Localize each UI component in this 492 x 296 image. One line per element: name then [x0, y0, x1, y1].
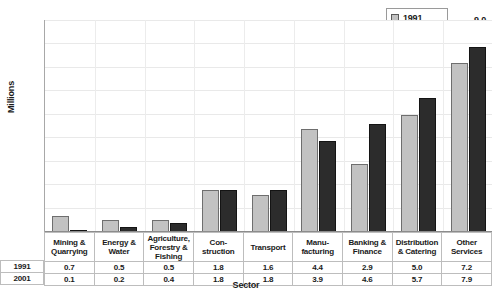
- table-header-cell: Manu-facturing: [293, 233, 343, 262]
- table-row-label-1991: 1991: [1, 261, 44, 273]
- table-header-cell: Banking &Finance: [342, 233, 392, 262]
- table-row: 0.70.50.51.81.64.42.95.07.2: [45, 262, 492, 274]
- table-cell: 7.2: [442, 262, 492, 274]
- column-separator: [393, 20, 394, 232]
- column-separator: [244, 20, 245, 232]
- plot-area: [44, 20, 492, 232]
- bar-1991-banking-finance: [351, 164, 368, 232]
- bar-2001-con-struction: [220, 190, 237, 232]
- column-separator: [344, 20, 345, 232]
- bar-2001-other-services: [469, 47, 486, 232]
- column-separator: [194, 20, 195, 232]
- column-separator: [95, 20, 96, 232]
- chart-screenshot: 1991 2001 Millions 0.01.02.03.04.05.06.0…: [0, 0, 492, 296]
- column-separator: [294, 20, 295, 232]
- x-axis-title: Sector: [0, 280, 492, 290]
- bar-1991-mining-quarrying: [52, 216, 69, 232]
- gridline: [45, 90, 492, 91]
- bar-1991-distribution-catering: [401, 115, 418, 232]
- bar-2001-distribution-catering: [419, 98, 436, 232]
- column-separator: [443, 20, 444, 232]
- table-header-cell: OtherServices: [442, 233, 492, 262]
- table-cell: 0.7: [45, 262, 95, 274]
- gridline: [45, 43, 492, 44]
- bar-1991-transport: [252, 195, 269, 233]
- table-header-cell: Energy &Water: [94, 233, 144, 262]
- gridline: [45, 67, 492, 68]
- table-cell: 1.8: [193, 262, 243, 274]
- table-header-cell: Mining &Quarrying: [45, 233, 95, 262]
- table-header-cell: Distribution& Catering: [392, 233, 442, 262]
- bar-2001-manu-facturing: [319, 141, 336, 232]
- table-cell: 0.5: [94, 262, 144, 274]
- table-header-cell: Agriculture,Forestry &Fishing: [144, 233, 194, 262]
- table-header-row: Mining &QuarryingEnergy &WaterAgricultur…: [45, 233, 492, 262]
- table-row-label-column: 1991 2001: [0, 232, 44, 285]
- table-header-cell: Con-struction: [193, 233, 243, 262]
- bar-2001-transport: [270, 190, 287, 232]
- table-header-cell: Transport: [243, 233, 293, 262]
- bar-2001-banking-finance: [369, 124, 386, 232]
- table-cell: 2.9: [342, 262, 392, 274]
- data-table: Mining &QuarryingEnergy &WaterAgricultur…: [44, 232, 492, 286]
- column-separator: [145, 20, 146, 232]
- table-cell: 0.5: [144, 262, 194, 274]
- table-cell: 1.6: [243, 262, 293, 274]
- bar-1991-manu-facturing: [301, 129, 318, 232]
- bar-1991-con-struction: [202, 190, 219, 232]
- bar-1991-other-services: [451, 63, 468, 232]
- table-cell: 4.4: [293, 262, 343, 274]
- y-axis-title: Millions: [6, 62, 16, 132]
- table-corner-spacer: [1, 232, 44, 261]
- table-cell: 5.0: [392, 262, 442, 274]
- plot-wrapper: [44, 20, 492, 232]
- gridline: [45, 20, 492, 21]
